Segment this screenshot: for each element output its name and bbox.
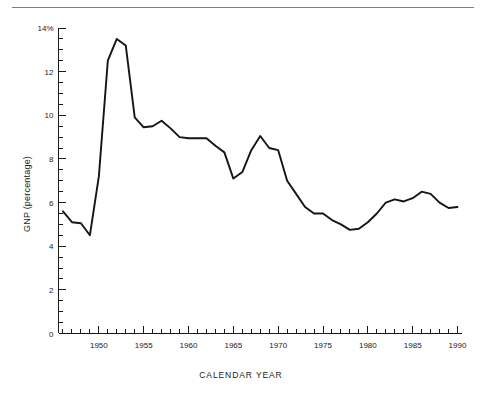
x-tick-label: 1985 [404, 341, 422, 350]
y-tick-label: 2 [49, 286, 54, 295]
data-series-group [63, 39, 458, 235]
x-tick-label: 1975 [314, 341, 332, 350]
y-tick-label: 0 [49, 330, 54, 339]
x-tick-label: 1955 [135, 341, 153, 350]
y-tick-label: 4 [49, 242, 54, 251]
x-axis-group: 195019551960196519701975198019851990 [59, 326, 467, 350]
y-tick-label: 14% [37, 24, 53, 33]
y-tick-label: 6 [49, 199, 54, 208]
y-axis-ticks [59, 28, 66, 334]
x-axis-ticks [63, 326, 458, 334]
y-axis-tick-labels: 02468101214% [37, 24, 54, 339]
chart-figure: 02468101214% 195019551960196519701975198… [0, 0, 482, 398]
line-chart-plot: 02468101214% 195019551960196519701975198… [0, 0, 482, 398]
y-tick-label: 12 [45, 68, 54, 77]
y-axis-label: GNP (percentage) [22, 156, 32, 232]
x-tick-label: 1950 [90, 341, 108, 350]
series-line-gnp-percentage [63, 39, 458, 235]
x-axis-tick-labels: 195019551960196519701975198019851990 [90, 341, 467, 350]
y-tick-label: 8 [49, 155, 54, 164]
y-tick-label: 10 [45, 111, 54, 120]
bottom-caption [0, 389, 482, 398]
x-tick-label: 1960 [180, 341, 198, 350]
x-tick-label: 1980 [359, 341, 377, 350]
x-tick-label: 1970 [269, 341, 287, 350]
x-tick-label: 1990 [449, 341, 467, 350]
x-axis-label: CALENDAR YEAR [0, 370, 482, 380]
x-tick-label: 1965 [224, 341, 242, 350]
y-axis-group: 02468101214% [37, 24, 65, 339]
